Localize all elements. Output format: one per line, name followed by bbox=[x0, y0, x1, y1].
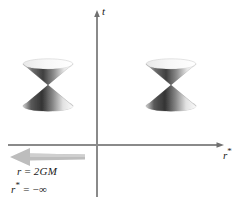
right-cone-lower-front bbox=[146, 85, 196, 111]
horizon-radius-relation: = bbox=[24, 165, 30, 177]
tortoise-limit-relation: = bbox=[23, 183, 29, 195]
horizon-radius-variable: r bbox=[17, 165, 21, 177]
time-axis-label: t bbox=[102, 6, 105, 17]
right-cone-upper-rim bbox=[146, 59, 196, 69]
horizon-direction-arrow bbox=[10, 148, 85, 166]
radial-axis-label: r* bbox=[223, 147, 232, 161]
horizon-arrow-shade bbox=[30, 154, 85, 158]
left-cone-upper-rim bbox=[23, 59, 73, 69]
radial-axis-label-superscript: * bbox=[227, 146, 232, 156]
tortoise-limit-annotation: r* = −∞ bbox=[11, 181, 47, 195]
right-light-cone bbox=[146, 59, 196, 111]
horizon-radius-value: 2GM bbox=[34, 165, 57, 177]
horizon-radius-annotation: r = 2GM bbox=[17, 166, 57, 177]
time-axis-arrowhead bbox=[94, 10, 100, 17]
tortoise-limit-value: −∞ bbox=[33, 183, 47, 195]
spacetime-diagram: t r* r = 2GM r* = −∞ bbox=[0, 0, 238, 200]
left-light-cone bbox=[23, 59, 73, 111]
tortoise-limit-superscript: * bbox=[15, 180, 20, 190]
left-cone-lower-front bbox=[23, 85, 73, 111]
